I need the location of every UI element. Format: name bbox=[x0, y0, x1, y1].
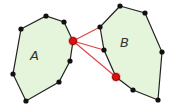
vertex-dot bbox=[130, 87, 135, 92]
vertex-dot bbox=[97, 24, 102, 29]
vertex-dot bbox=[142, 10, 147, 15]
polygon-tangent-diagram: A B bbox=[0, 0, 174, 112]
vertex-dot bbox=[67, 58, 72, 63]
vertex-dot bbox=[61, 19, 66, 24]
highlighted-vertex bbox=[69, 37, 76, 44]
polygon-b-label: B bbox=[120, 35, 129, 50]
vertex-dot bbox=[56, 79, 61, 84]
diagram-svg bbox=[0, 0, 174, 112]
vertex-dot bbox=[18, 26, 23, 31]
vertex-dot bbox=[155, 97, 160, 102]
vertex-dot bbox=[10, 71, 15, 76]
vertex-dot bbox=[101, 47, 106, 52]
vertex-dot bbox=[23, 98, 28, 103]
vertex-dot bbox=[159, 49, 164, 54]
vertex-dot bbox=[117, 3, 122, 8]
vertex-dot bbox=[43, 13, 48, 18]
polygon-b bbox=[100, 6, 162, 100]
highlighted-vertex bbox=[112, 73, 119, 80]
polygon-a-label: A bbox=[30, 48, 39, 63]
